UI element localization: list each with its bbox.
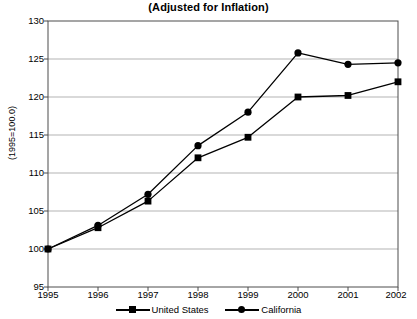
x-tick-label: 1996 bbox=[76, 290, 120, 300]
gridlines bbox=[48, 59, 398, 249]
data-point-square-marker bbox=[195, 154, 202, 161]
data-point-circle-marker bbox=[194, 142, 201, 149]
chart-container: (Adjusted for Inflation) (1995=100.0) 13… bbox=[0, 0, 417, 319]
data-series-layer bbox=[44, 49, 401, 252]
plot-border bbox=[48, 21, 398, 287]
plot-area bbox=[0, 0, 417, 319]
data-point-square-marker bbox=[145, 198, 152, 205]
x-tick-label: 1995 bbox=[26, 290, 70, 300]
legend-label: United States bbox=[152, 304, 209, 315]
x-tick-label: 1999 bbox=[226, 290, 270, 300]
legend-circle-marker-icon bbox=[225, 305, 259, 314]
chart-legend: United States California bbox=[0, 303, 417, 315]
x-tick-label: 2000 bbox=[276, 290, 320, 300]
data-point-square-marker bbox=[245, 134, 252, 141]
legend-label: California bbox=[261, 304, 301, 315]
x-tick-label: 1997 bbox=[126, 290, 170, 300]
data-point-circle-marker bbox=[294, 49, 301, 56]
data-point-circle-marker bbox=[394, 59, 401, 66]
legend-item-united-states: United States bbox=[116, 303, 209, 315]
x-tick-label: 1998 bbox=[176, 290, 220, 300]
legend-square-marker-icon bbox=[116, 305, 150, 314]
data-point-square-marker bbox=[345, 92, 352, 99]
data-point-square-marker bbox=[395, 78, 402, 85]
x-tick-label: 2002 bbox=[374, 290, 417, 300]
data-point-circle-marker bbox=[344, 61, 351, 68]
legend-item-california: California bbox=[225, 303, 301, 315]
data-point-circle-marker bbox=[244, 109, 251, 116]
series-california bbox=[44, 49, 401, 252]
data-point-circle-marker bbox=[44, 245, 51, 252]
plot-frame bbox=[48, 21, 398, 287]
x-tick-label: 2001 bbox=[326, 290, 370, 300]
data-point-circle-marker bbox=[94, 222, 101, 229]
data-point-square-marker bbox=[295, 94, 302, 101]
series-line bbox=[48, 53, 398, 249]
data-point-circle-marker bbox=[144, 191, 151, 198]
